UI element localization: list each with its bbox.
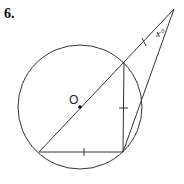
secant-line <box>123 9 174 152</box>
vertical-chord <box>123 62 124 152</box>
angle-label: x° <box>155 28 164 39</box>
center-point <box>78 105 82 109</box>
center-label: O <box>69 93 78 107</box>
geometry-diagram: O x° <box>0 0 184 184</box>
diameter-line <box>39 9 174 152</box>
